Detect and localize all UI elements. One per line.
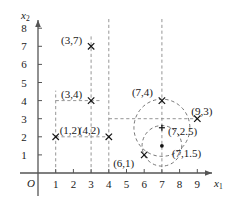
point-label-p93: (9,3) [191, 106, 212, 117]
marker-p715 [160, 144, 164, 148]
x-tick-label-4: 4 [100, 179, 118, 190]
x-axis-arrowhead [205, 170, 212, 176]
y-axis-label: x2 [21, 10, 30, 21]
dot-marker [160, 144, 164, 148]
x-tick-label-1: 1 [47, 179, 65, 190]
x-axis-label: x1 [214, 178, 223, 189]
x-tick-label-5: 5 [118, 179, 136, 190]
marker-p42 [106, 134, 112, 140]
x-axis-label-subscript: 1 [219, 182, 223, 191]
y-tick-label-4: 4 [17, 96, 31, 107]
point-label-p37: (3,7) [61, 35, 82, 46]
point-label-p42: (4,2) [79, 125, 100, 136]
marker-p61 [141, 152, 147, 158]
y-tick-label-7: 7 [17, 41, 31, 52]
axes [20, 20, 212, 196]
point-label-p61: (6,1) [113, 158, 134, 169]
y-tick-label-5: 5 [17, 78, 31, 89]
y-tick-label-2: 2 [17, 132, 31, 143]
point-label-p12: (1,2) [60, 125, 81, 136]
x-tick-label-2: 2 [64, 179, 82, 190]
x-tick-label-7: 7 [153, 179, 171, 190]
y-axis-arrowhead [35, 20, 41, 27]
origin-label: O [27, 178, 35, 189]
y-tick-label-1: 1 [17, 150, 31, 161]
x-tick-label-9: 9 [188, 179, 206, 190]
y-axis-label-subscript: 2 [26, 14, 30, 23]
point-label-p725: (7,2.5) [168, 126, 197, 137]
point-label-p34: (3,4) [61, 89, 82, 100]
x-tick-label-6: 6 [135, 179, 153, 190]
y-tick-label-6: 6 [17, 59, 31, 70]
x-tick-label-3: 3 [82, 179, 100, 190]
y-tick-label-8: 8 [17, 23, 31, 34]
point-label-p74: (7,4) [132, 87, 153, 98]
point-label-p715: (7,1.5) [172, 148, 201, 159]
x-tick-label-8: 8 [171, 179, 189, 190]
y-tick-label-3: 3 [17, 114, 31, 125]
scatter-plot-figure: (3,7)(3,4)(1,2)(4,2)(6,1)(7,4)(9,3)(7,2.… [0, 0, 232, 204]
plot-canvas [0, 0, 232, 204]
